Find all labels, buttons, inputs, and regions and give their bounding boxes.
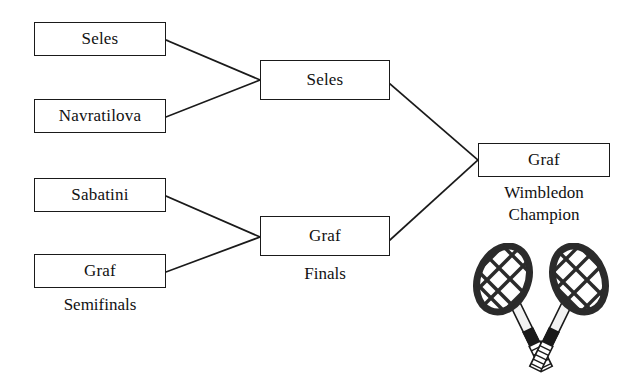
connector-navratilova-to-final bbox=[166, 80, 260, 117]
connector-graf-to-final bbox=[166, 237, 260, 272]
tournament-bracket-diagram: Seles Navratilova Sabatini Graf Semifina… bbox=[0, 0, 637, 383]
connector-finalgraf-to-champion bbox=[390, 160, 478, 240]
semifinal-box-navratilova[interactable]: Navratilova bbox=[34, 99, 166, 133]
final-box-graf[interactable]: Graf bbox=[260, 216, 390, 256]
semifinal-box-graf-label: Graf bbox=[84, 261, 116, 281]
racket-right bbox=[528, 243, 622, 372]
final-box-seles-label: Seles bbox=[307, 70, 344, 90]
semifinal-box-seles-label: Seles bbox=[82, 29, 119, 49]
champion-box-label: Graf bbox=[528, 150, 560, 170]
champion-box-graf[interactable]: Graf bbox=[478, 143, 610, 177]
final-box-seles[interactable]: Seles bbox=[260, 60, 390, 100]
semifinal-box-seles[interactable]: Seles bbox=[34, 22, 166, 56]
semifinal-box-sabatini-label: Sabatini bbox=[71, 185, 128, 205]
round-label-semifinals: Semifinals bbox=[34, 295, 166, 315]
semifinal-box-navratilova-label: Navratilova bbox=[59, 106, 141, 126]
champion-caption-line1: Wimbledon bbox=[469, 182, 619, 204]
connector-finalseles-to-champion bbox=[390, 84, 478, 160]
round-label-finals: Finals bbox=[260, 264, 390, 284]
champion-caption-line2: Champion bbox=[469, 204, 619, 226]
semifinal-box-sabatini[interactable]: Sabatini bbox=[34, 178, 166, 212]
crossed-tennis-rackets-icon bbox=[462, 243, 622, 378]
final-box-graf-label: Graf bbox=[309, 226, 341, 246]
semifinal-box-graf[interactable]: Graf bbox=[34, 254, 166, 288]
connector-sabatini-to-final bbox=[166, 196, 260, 237]
champion-caption: Wimbledon Champion bbox=[469, 182, 619, 226]
connector-seles-to-final bbox=[166, 40, 260, 80]
